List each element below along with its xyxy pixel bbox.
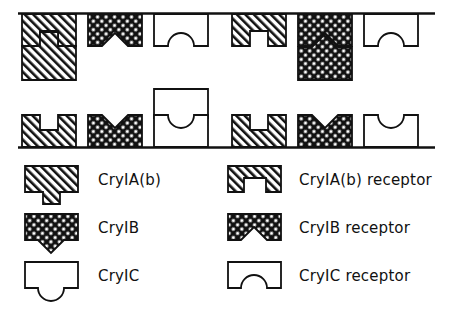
legend-label-cryIC-toxin: CryIC bbox=[98, 267, 139, 285]
legend-label-cryIB-receptor: CryIB receptor bbox=[299, 219, 411, 237]
figure-container: CryIA(b) CryIA(b) receptor CryIB CryIB r… bbox=[0, 0, 451, 313]
legend-label-cryIAb-receptor: CryIA(b) receptor bbox=[299, 171, 433, 189]
legend-label-cryIAb-toxin: CryIA(b) bbox=[98, 171, 161, 189]
diagram-svg: CryIA(b) CryIA(b) receptor CryIB CryIB r… bbox=[0, 0, 451, 313]
legend-label-cryIC-receptor: CryIC receptor bbox=[299, 267, 411, 285]
legend-label-cryIB-toxin: CryIB bbox=[98, 219, 139, 237]
